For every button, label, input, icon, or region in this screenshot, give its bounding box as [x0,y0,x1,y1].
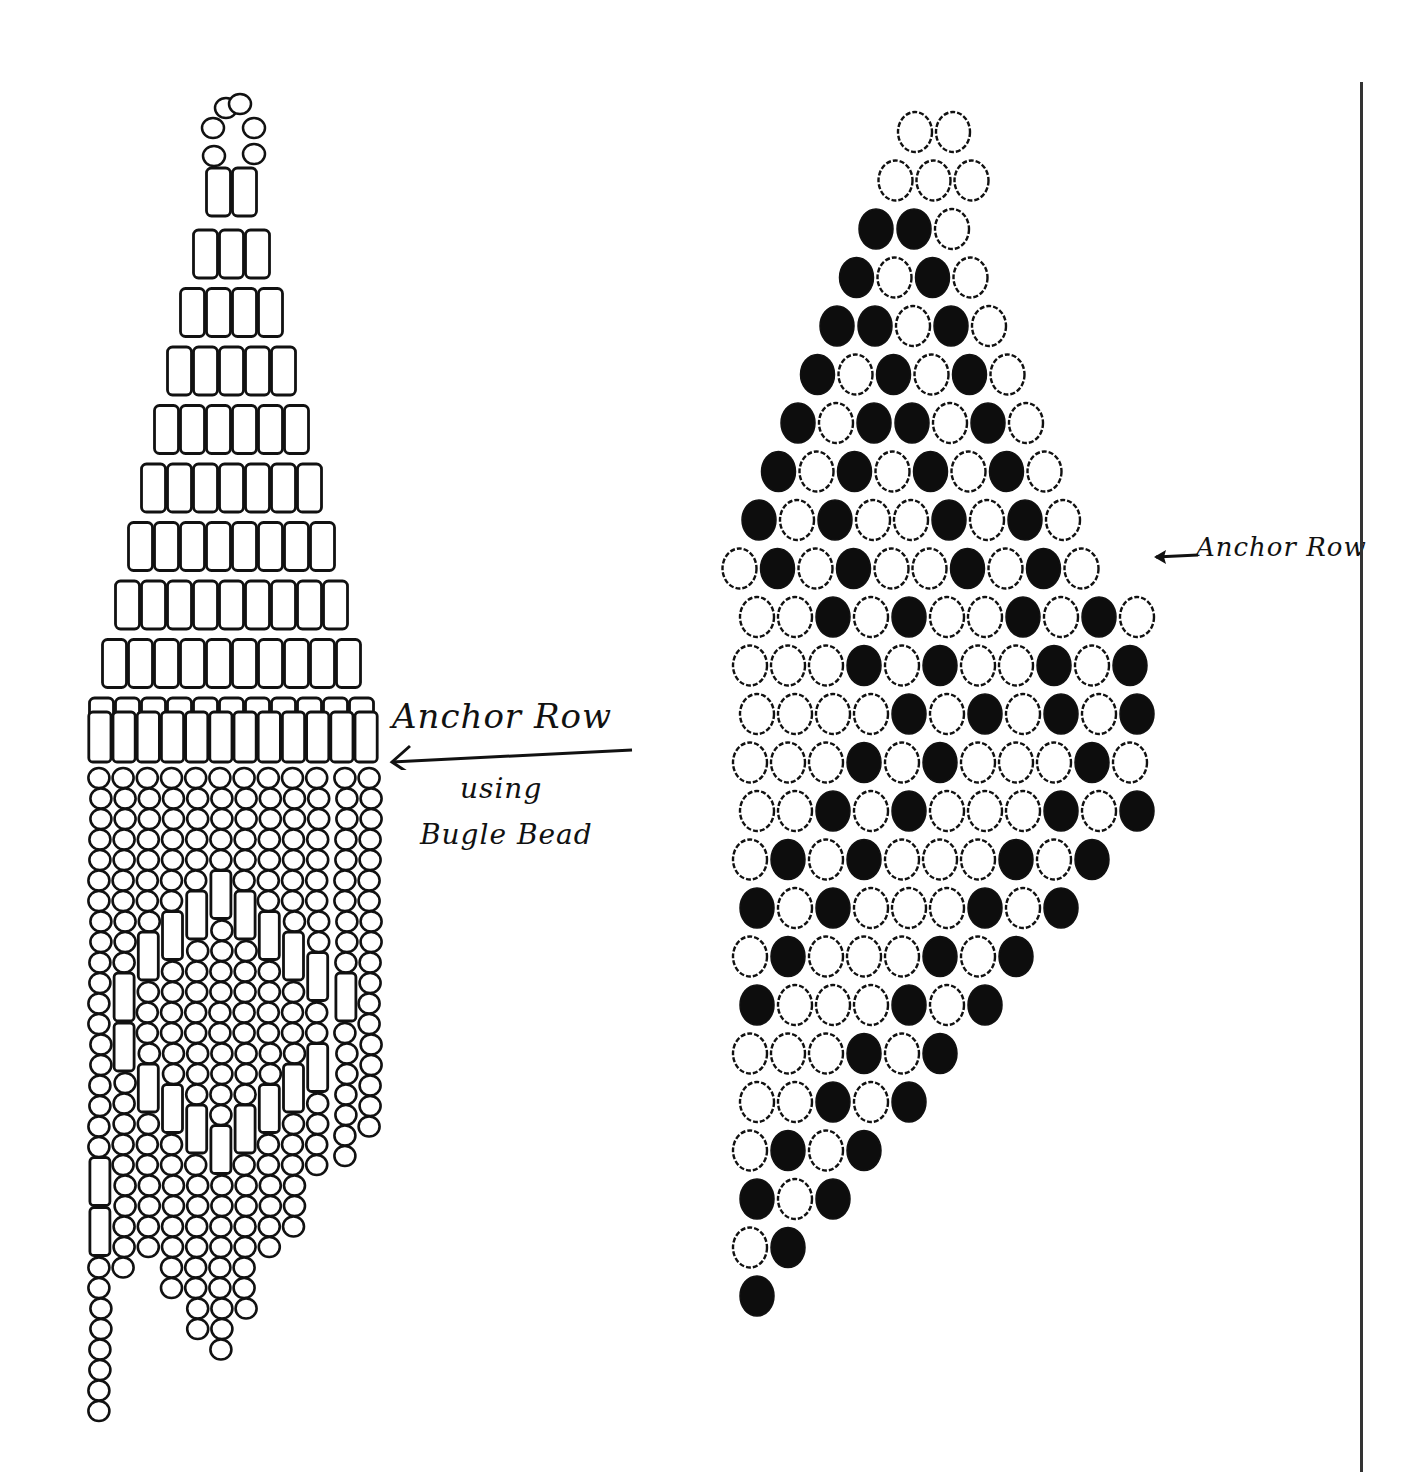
dark-bead [1120,791,1154,831]
bugle-bead-label: Bugle Bead [420,818,593,851]
light-bead [809,743,843,783]
dark-bead [971,403,1005,443]
light-bead [1113,743,1147,783]
light-bead [1037,840,1071,880]
light-bead [740,597,774,637]
dark-bead [923,1034,957,1074]
dark-bead [816,597,850,637]
dark-bead [1027,549,1061,589]
dark-bead [847,743,881,783]
dark-bead [771,1131,805,1171]
light-bead [968,791,1002,831]
light-bead [1082,791,1116,831]
dark-bead [1075,840,1109,880]
dark-bead [895,403,929,443]
light-bead [876,452,910,492]
light-bead [771,646,805,686]
light-bead [913,549,947,589]
light-bead [778,694,812,734]
dark-bead [820,306,854,346]
dark-bead [740,985,774,1025]
light-bead [1006,791,1040,831]
dark-bead [1006,597,1040,637]
light-bead [991,355,1025,395]
dark-bead [781,403,815,443]
light-bead [898,112,932,152]
page-margin-rule [1360,82,1363,1472]
light-bead [1075,646,1109,686]
light-bead [854,888,888,928]
light-bead [954,258,988,298]
dark-bead [1120,694,1154,734]
light-bead [972,306,1006,346]
light-bead [915,355,949,395]
dark-bead [816,791,850,831]
dark-bead [914,452,948,492]
dark-bead [761,549,795,589]
light-bead [778,888,812,928]
light-bead [961,743,995,783]
light-bead [968,597,1002,637]
dark-bead [990,452,1024,492]
dark-bead [923,937,957,977]
light-bead [955,161,989,201]
light-bead [778,791,812,831]
light-bead [778,597,812,637]
dark-bead [847,840,881,880]
light-bead [885,1034,919,1074]
dark-bead [742,500,776,540]
light-bead [854,694,888,734]
light-bead [961,840,995,880]
light-bead [935,209,969,249]
dark-bead [999,840,1033,880]
light-bead [740,694,774,734]
dark-bead [816,1179,850,1219]
light-bead [1006,694,1040,734]
dark-bead [847,646,881,686]
light-bead [961,937,995,977]
dark-bead [916,258,950,298]
light-bead [970,500,1004,540]
dark-bead [857,403,891,443]
dark-bead [740,888,774,928]
dark-bead [951,549,985,589]
light-bead [923,840,957,880]
light-bead [854,1082,888,1122]
dark-bead [762,452,796,492]
light-bead [816,985,850,1025]
light-bead [854,597,888,637]
dark-bead [1044,888,1078,928]
light-bead [1120,597,1154,637]
light-bead [952,452,986,492]
light-bead [878,258,912,298]
light-bead [778,985,812,1025]
dark-bead [892,1082,926,1122]
dark-bead [1037,646,1071,686]
light-bead [854,791,888,831]
light-bead [1065,549,1099,589]
dark-bead [1044,694,1078,734]
light-bead [999,743,1033,783]
light-bead [961,646,995,686]
light-bead [816,694,850,734]
light-bead [740,1082,774,1122]
light-bead [733,743,767,783]
dark-bead [892,694,926,734]
light-bead [1006,888,1040,928]
light-bead [885,937,919,977]
light-bead [809,840,843,880]
light-bead [1082,694,1116,734]
dark-bead [968,888,1002,928]
dark-bead [892,597,926,637]
dark-bead [897,209,931,249]
light-bead [854,985,888,1025]
dark-bead [847,1131,881,1171]
light-bead [933,403,967,443]
light-bead [885,840,919,880]
light-bead [809,937,843,977]
light-bead [930,791,964,831]
light-bead [1009,403,1043,443]
light-bead [930,985,964,1025]
dark-bead [859,209,893,249]
anchor-row-label-left: Anchor Row [392,696,612,736]
